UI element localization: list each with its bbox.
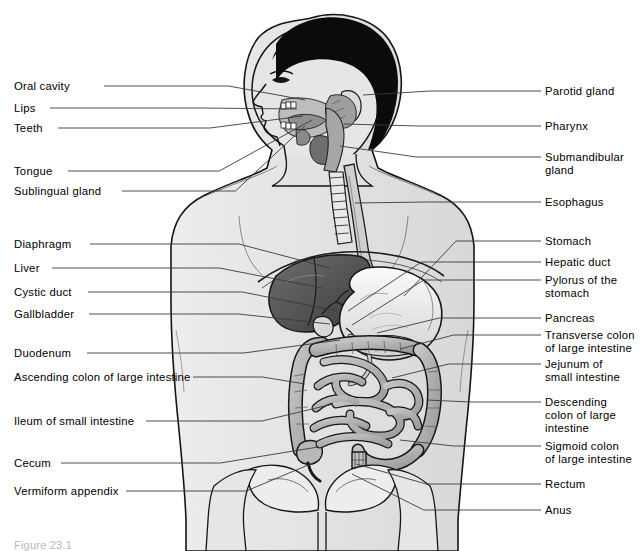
label-diaphragm: Diaphragm [14,238,71,251]
label-pylorus: Pylorus of the stomach [545,274,617,300]
label-jejunum: Jejunum of small intestine [545,358,620,384]
label-cystic-duct: Cystic duct [14,286,72,299]
figure-caption: Figure 23.1 [14,539,72,551]
label-anus: Anus [545,504,572,517]
label-gallbladder: Gallbladder [14,308,74,321]
label-stomach: Stomach [545,235,591,248]
label-parotid-gland: Parotid gland [545,85,615,98]
label-descending-colon: Descending colon of large intestine [545,396,616,436]
label-esophagus: Esophagus [545,196,604,209]
label-sigmoid-colon: Sigmoid colon of large intestine [545,440,632,466]
label-liver: Liver [14,262,40,275]
label-pancreas: Pancreas [545,312,595,325]
label-sublingual-gland: Sublingual gland [14,185,101,198]
label-duodenum: Duodenum [14,347,71,360]
label-ileum: Ileum of small intestine [14,415,134,428]
label-cecum: Cecum [14,457,51,470]
label-vermiform-appendix: Vermiform appendix [14,485,119,498]
label-lips: Lips [14,102,36,115]
label-teeth: Teeth [14,122,43,135]
figure-canvas: Oral cavityLipsTeethTongueSublingual gla… [0,0,642,551]
label-oral-cavity: Oral cavity [14,80,70,93]
label-rectum: Rectum [545,478,585,491]
label-transverse-colon: Transverse colon of large intestine [545,329,635,355]
label-hepatic-duct: Hepatic duct [545,256,611,269]
label-pharynx: Pharynx [545,120,588,133]
label-ascending-colon: Ascending colon of large intestine [14,371,191,384]
label-tongue: Tongue [14,165,52,178]
label-submandibular-gland: Submandibular gland [545,151,624,177]
